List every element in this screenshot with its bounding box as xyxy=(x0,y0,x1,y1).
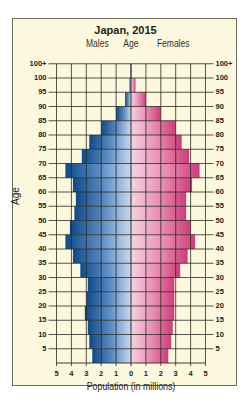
x-tick-label: 0 xyxy=(125,369,137,378)
female-bar xyxy=(131,263,180,277)
x-tick-label: 4 xyxy=(65,369,77,378)
male-bar xyxy=(92,349,131,363)
x-tick-label: 1 xyxy=(140,369,152,378)
y-tick-label: 80 xyxy=(216,130,224,139)
y-tick-label: 15 xyxy=(38,315,46,324)
y-tick-label: 20 xyxy=(38,301,46,310)
y-tick-label: 45 xyxy=(38,230,46,239)
y-tick-label: 80 xyxy=(38,130,46,139)
y-tick-label: 50 xyxy=(216,216,224,225)
y-tick-label: 85 xyxy=(38,116,46,125)
male-bar xyxy=(73,249,131,263)
y-tick-label: 75 xyxy=(216,144,224,153)
y-tick-label: 5 xyxy=(42,344,46,353)
y-tick-label: 30 xyxy=(216,273,224,282)
male-bar xyxy=(116,107,131,121)
y-tick-label: 15 xyxy=(216,315,224,324)
y-tick-label: 40 xyxy=(216,244,224,253)
y-tick-label: 65 xyxy=(38,173,46,182)
male-bar xyxy=(82,149,131,163)
x-tick-label: 4 xyxy=(185,369,197,378)
y-tick-label: 70 xyxy=(38,159,46,168)
y-tick-label: 60 xyxy=(216,187,224,196)
y-tick-label: 90 xyxy=(216,102,224,111)
y-tick-label: 85 xyxy=(216,116,224,125)
female-bar xyxy=(131,135,182,149)
female-bar xyxy=(131,292,174,306)
y-tick-label: 35 xyxy=(216,258,224,267)
y-tick-label: 95 xyxy=(216,87,224,96)
y-tick-label: 75 xyxy=(38,144,46,153)
y-tick-label: 5 xyxy=(216,344,220,353)
female-bar xyxy=(131,335,171,349)
female-bar xyxy=(131,121,176,135)
y-tick-label: 45 xyxy=(216,230,224,239)
y-tick-label: 20 xyxy=(216,301,224,310)
x-tick-label: 1 xyxy=(110,369,122,378)
female-bar xyxy=(131,249,188,263)
female-bar xyxy=(131,306,174,320)
y-tick-label: 55 xyxy=(216,201,224,210)
y-tick-label: 50 xyxy=(38,216,46,225)
x-tick-label: 5 xyxy=(51,369,63,378)
male-bar xyxy=(80,263,131,277)
y-tick-label: 100+ xyxy=(216,59,233,68)
female-bar xyxy=(131,320,173,334)
female-bar xyxy=(131,235,195,249)
y-tick-label: 100+ xyxy=(30,59,47,68)
y-tick-label: 10 xyxy=(216,330,224,339)
male-bar xyxy=(76,192,131,206)
y-tick-label: 55 xyxy=(38,201,46,210)
y-tick-label: 10 xyxy=(38,330,46,339)
female-bar xyxy=(131,164,200,178)
y-tick-label: 35 xyxy=(38,258,46,267)
female-bar xyxy=(131,92,146,106)
y-tick-label: 90 xyxy=(38,102,46,111)
y-tick-label: 100 xyxy=(34,73,47,82)
male-bar xyxy=(70,221,131,235)
y-axis-title: Age xyxy=(10,187,21,205)
female-bar xyxy=(131,78,135,92)
bars xyxy=(65,64,199,363)
female-bar xyxy=(131,178,192,192)
y-tick-label: 25 xyxy=(38,287,46,296)
y-tick-label: 25 xyxy=(216,287,224,296)
male-bar xyxy=(65,235,131,249)
female-bar xyxy=(131,206,186,220)
grid xyxy=(49,64,214,366)
female-bar xyxy=(131,192,186,206)
male-bar xyxy=(85,306,131,320)
y-tick-label: 40 xyxy=(38,244,46,253)
male-bar xyxy=(88,320,131,334)
x-tick-label: 2 xyxy=(95,369,107,378)
female-bar xyxy=(131,149,189,163)
male-bar xyxy=(125,92,131,106)
male-bar xyxy=(65,164,131,178)
male-bar xyxy=(73,178,131,192)
x-tick-label: 3 xyxy=(170,369,182,378)
y-tick-label: 70 xyxy=(216,159,224,168)
male-bar xyxy=(86,292,131,306)
male-bar xyxy=(88,278,131,292)
x-tick-label: 2 xyxy=(155,369,167,378)
y-tick-label: 100 xyxy=(216,73,229,82)
x-axis-title: Population (in millions) xyxy=(16,381,247,392)
female-bar xyxy=(131,278,174,292)
x-tick-label: 3 xyxy=(80,369,92,378)
y-tick-label: 95 xyxy=(38,87,46,96)
y-tick-label: 60 xyxy=(38,187,46,196)
female-bar xyxy=(131,349,168,363)
male-bar xyxy=(89,335,131,349)
y-tick-label: 30 xyxy=(38,273,46,282)
male-bar xyxy=(89,135,131,149)
male-bar xyxy=(74,206,131,220)
x-tick-label: 5 xyxy=(200,369,212,378)
y-tick-label: 65 xyxy=(216,173,224,182)
